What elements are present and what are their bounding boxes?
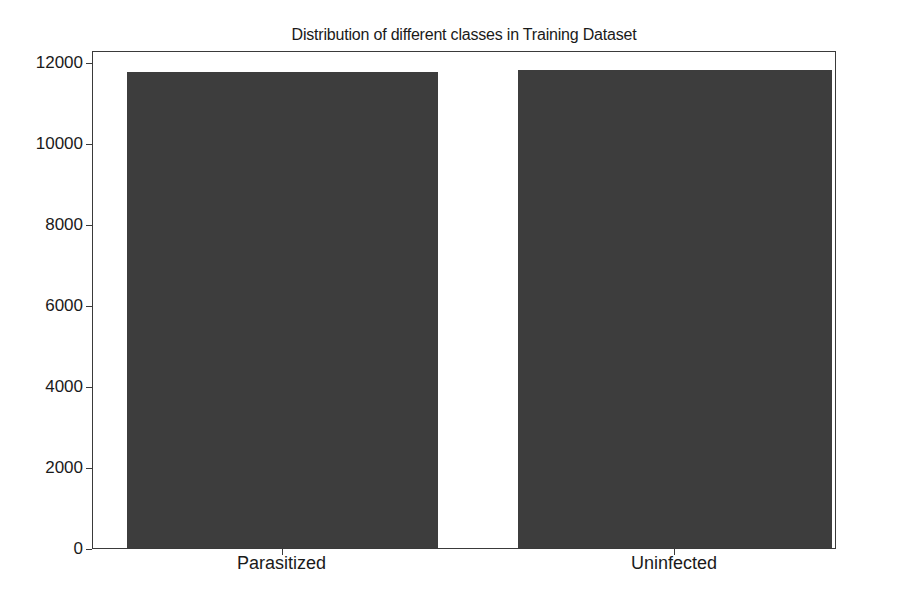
x-tick-label: Uninfected: [631, 553, 717, 574]
y-tick: [86, 63, 92, 64]
y-tick: [86, 225, 92, 226]
y-tick: [86, 549, 92, 550]
plot-area: [92, 51, 836, 549]
y-tick-label: 0: [74, 539, 83, 559]
bar-parasitized: [127, 72, 438, 548]
y-tick: [86, 468, 92, 469]
x-tick-label: Parasitized: [237, 553, 326, 574]
y-tick-label: 6000: [45, 296, 83, 316]
bar-uninfected: [518, 70, 832, 548]
y-tick-label: 12000: [36, 53, 83, 73]
y-tick-label: 8000: [45, 215, 83, 235]
y-tick-label: 2000: [45, 458, 83, 478]
y-tick: [86, 387, 92, 388]
y-tick: [86, 144, 92, 145]
y-tick: [86, 306, 92, 307]
y-tick-label: 4000: [45, 377, 83, 397]
chart-title: Distribution of different classes in Tra…: [92, 26, 836, 44]
y-tick-label: 10000: [36, 134, 83, 154]
